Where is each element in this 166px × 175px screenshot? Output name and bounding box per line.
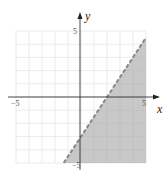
y-axis-label: y xyxy=(84,9,91,23)
x-axis-arrow-icon xyxy=(153,95,160,100)
inequality-graph: y x −5 5 5 −5 xyxy=(0,0,166,175)
tick-label-x-neg: −5 xyxy=(11,99,20,108)
tick-label-x-pos: 5 xyxy=(142,99,146,108)
x-axis-label: x xyxy=(156,102,163,116)
tick-label-y-pos: 5 xyxy=(73,27,77,36)
y-axis-arrow-icon xyxy=(78,12,83,19)
tick-label-y-neg: −5 xyxy=(72,161,81,170)
